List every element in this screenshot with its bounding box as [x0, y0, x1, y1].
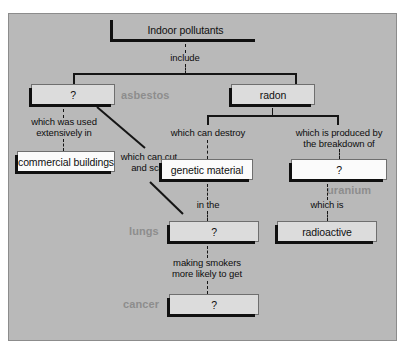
- link-label-which-can-destroy: which can destroy: [161, 127, 255, 138]
- concept-map-panel: Indoor pollutants include ? asbestos rad…: [8, 13, 397, 341]
- connector-whichis-lower: [327, 211, 328, 221]
- concept-map-figure: Indoor pollutants include ? asbestos rad…: [0, 0, 409, 358]
- connector-smokers-lower: [207, 281, 208, 294]
- connector-radon-bracket: [207, 115, 339, 125]
- connector-destroy-lower: [207, 140, 208, 159]
- answer-label-cancer: cancer: [123, 298, 159, 310]
- connector-produced-lower: [339, 149, 340, 159]
- node-label: ?: [336, 164, 342, 176]
- node-label: ?: [211, 226, 217, 238]
- node-label: genetic material: [171, 164, 244, 176]
- node-label: ?: [211, 299, 217, 311]
- link-label-making-smokers: making smokers more likely to get: [159, 257, 255, 279]
- cropped-text-remnant: [252, 0, 342, 9]
- node-genetic-material[interactable]: genetic material: [161, 159, 253, 180]
- node-cancer-answer-box[interactable]: ?: [169, 294, 259, 315]
- answer-label-lungs: lungs: [129, 225, 159, 237]
- node-label: radioactive: [302, 226, 352, 238]
- node-lungs-answer-box[interactable]: ?: [169, 221, 259, 242]
- connector-whichis-upper: [327, 184, 328, 200]
- answer-label-uranium: uranium: [327, 184, 371, 196]
- node-radioactive[interactable]: radioactive: [277, 221, 377, 242]
- connector-inthe-lower: [207, 211, 208, 221]
- link-label-in-the: in the: [185, 199, 231, 210]
- connector-inthe-upper: [207, 184, 208, 200]
- link-label-which-is: which is: [303, 199, 351, 210]
- node-uranium-answer-box[interactable]: ?: [291, 159, 387, 180]
- link-label-which-is-produced: which is produced by the breakdown of: [283, 127, 395, 149]
